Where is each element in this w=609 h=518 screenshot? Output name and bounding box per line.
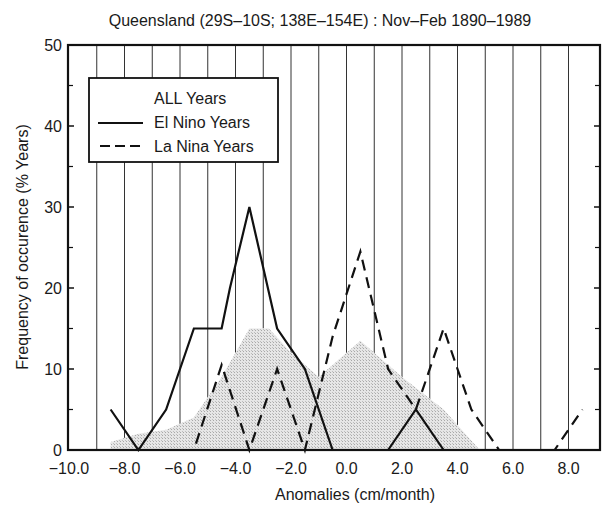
x-tick-label: −2.0	[275, 460, 307, 477]
series-all-years	[111, 329, 480, 451]
x-tick-label: −8.0	[109, 460, 141, 477]
y-tick-label: 0	[53, 442, 62, 459]
x-tick-label: −6.0	[164, 460, 196, 477]
y-tick-label: 50	[44, 37, 62, 54]
y-tick-label: 10	[44, 361, 62, 378]
x-tick-label: 0.0	[335, 460, 357, 477]
x-tick-label: 8.0	[557, 460, 579, 477]
legend-entry-label: El Nino Years	[154, 114, 250, 131]
x-tick-label: 4.0	[446, 460, 468, 477]
y-tick-label: 40	[44, 118, 62, 135]
legend-entry-label: ALL Years	[154, 90, 226, 107]
plot-area: 01020304050−10.0−8.0−6.0−4.0−2.00.02.04.…	[0, 0, 609, 518]
y-tick-label: 20	[44, 280, 62, 297]
y-tick-label: 30	[44, 199, 62, 216]
x-tick-label: 6.0	[502, 460, 524, 477]
legend-entry-label: La Nina Years	[154, 138, 254, 155]
x-tick-label: 2.0	[391, 460, 413, 477]
legend: ALL YearsEl Nino YearsLa Nina Years	[89, 78, 278, 162]
x-tick-label: −4.0	[220, 460, 252, 477]
x-tick-label: −10.0	[49, 460, 90, 477]
